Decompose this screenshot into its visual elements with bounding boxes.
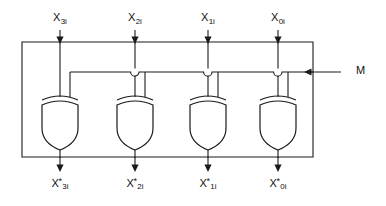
output-label-x0i-star: X*0i — [270, 177, 287, 191]
mode-control-bus-wire — [70, 69, 341, 97]
output-arrow-x3i-star — [56, 157, 63, 172]
output-label-x3i-sub: 3i — [62, 182, 68, 191]
output-arrow-x2i-star — [131, 157, 138, 172]
input-label-x1i-base: X — [201, 11, 209, 23]
input-label-x3i: X3i — [53, 12, 67, 26]
input-label-x2i-base: X — [128, 11, 136, 23]
mode-control-label-text: M — [356, 64, 365, 76]
output-label-x1i-sub: 1i — [210, 182, 216, 191]
input-label-x3i-base: X — [53, 11, 61, 23]
xor-gate-3 — [42, 96, 78, 158]
input-label-x2i: X2i — [128, 12, 142, 26]
input-label-x0i-sub: 0i — [279, 17, 285, 26]
output-label-x2i-star: X*2i — [127, 177, 144, 191]
xor-gate-0 — [260, 96, 296, 158]
output-label-x3i-star: X*3i — [52, 177, 69, 191]
xor-gate-1 — [190, 96, 226, 158]
logic-diagram-figure: X3i X2i X1i X0i M X*3i X*2i X*1i X*0i — [0, 0, 386, 206]
input-label-x2i-sub: 2i — [136, 17, 142, 26]
input-label-x3i-sub: 3i — [61, 17, 67, 26]
output-label-x1i-star: X*1i — [200, 177, 217, 191]
output-label-x0i-sub: 0i — [280, 182, 286, 191]
input-label-x0i: X0i — [271, 12, 285, 26]
input-label-x1i-sub: 1i — [209, 17, 215, 26]
output-arrow-x1i-star — [204, 157, 211, 172]
xor-gate-2 — [117, 96, 153, 158]
output-label-x2i-sub: 2i — [137, 182, 143, 191]
output-arrow-x0i-star — [274, 157, 281, 172]
input-label-x0i-base: X — [271, 11, 279, 23]
mode-control-label: M — [356, 65, 365, 76]
input-label-x1i: X1i — [201, 12, 215, 26]
module-enclosure-box — [22, 42, 313, 157]
